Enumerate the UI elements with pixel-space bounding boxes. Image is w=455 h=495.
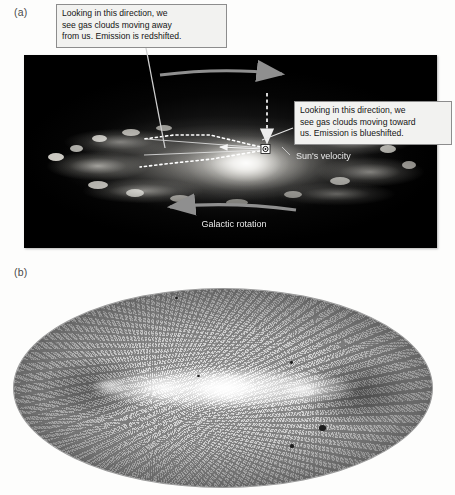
- callout-blueshift-line-1: Looking in this direction, we: [300, 105, 446, 117]
- leader-line-redshift: [146, 48, 165, 148]
- callout-redshift-line-2: see gas clouds moving away: [62, 20, 221, 32]
- callout-redshift-line-1: Looking in this direction, we: [62, 8, 221, 20]
- callout-leader-lines: [0, 0, 455, 495]
- leader-line-blueshift: [262, 128, 293, 140]
- callout-blueshift-line-3: us. Emission is blueshifted.: [300, 128, 446, 140]
- callout-blueshift: Looking in this direction, we see gas cl…: [294, 101, 452, 145]
- callout-redshift-line-3: from us. Emission is redshifted.: [62, 31, 221, 43]
- callout-blueshift-line-2: see gas clouds moving toward: [300, 117, 446, 129]
- callout-redshift: Looking in this direction, we see gas cl…: [56, 4, 227, 48]
